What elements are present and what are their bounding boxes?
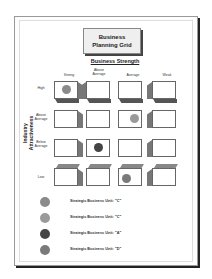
legend-color-swatch [40,197,50,207]
cell-face [152,139,176,157]
col-label-strong: Strong [56,73,82,77]
grid-cell-above-average-strong [54,110,78,128]
row-label-line: Average [31,117,51,121]
x-axis-title: Business Strength [80,58,150,64]
grid-cell-low-above-average [86,168,110,186]
cell-face [86,168,110,186]
legend-label: Strategic Business Unit: "C" [70,199,121,203]
col-label-line: Average [86,72,112,76]
legend-color-swatch [40,245,50,255]
cell-bottom [87,99,111,103]
grid-cell-low-average [118,168,142,186]
diagram-title: Business Planning Grid [83,28,141,54]
grid-cell-below-average-strong [54,139,78,157]
row-label-above-average: Above Average [31,113,51,121]
sbu-marker-d [122,174,131,183]
legend-label: Strategic Business Unit: "D" [70,247,121,251]
grid-cell-below-average-average [118,139,142,157]
row-label-below-average: Below Average [31,140,51,148]
row-label-high: High [31,86,51,90]
cell-face [54,168,78,186]
sbu-marker-a [94,143,103,152]
cell-face [118,139,142,157]
grid-cell-above-average-weak [152,110,176,128]
grid-cell-high-above-average [86,81,110,99]
grid-cell-low-weak [152,168,176,186]
grid-cell-high-strong [54,81,78,99]
cell-bottom [153,99,177,103]
grid-cell-below-average-above-average [86,139,110,157]
grid-cell-below-average-weak [152,139,176,157]
grid-cell-high-weak [152,81,176,99]
grid-cell-low-strong [54,168,78,186]
cell-face [152,110,176,128]
sbu-marker-c [62,85,71,94]
grid-cell-above-average-above-average [86,110,110,128]
legend-color-swatch [40,213,50,223]
cell-face [86,81,110,99]
title-line-1: Business [84,33,140,41]
col-label-average: Average [120,73,146,77]
col-label-weak: Weak [154,73,180,77]
title-line-2: Planning Grid [84,41,140,49]
row-label-low: Low [31,175,51,179]
sbu-marker-c [130,114,139,123]
cell-face [86,110,110,128]
cell-bottom [119,99,143,103]
cell-face [54,139,78,157]
col-label-above-average: Above Average [86,68,112,76]
cell-face [118,81,142,99]
legend-label: Strategic Business Unit: "C" [70,215,121,219]
legend-color-swatch [40,229,50,239]
cell-face [152,81,176,99]
row-label-line: Average [31,144,51,148]
grid-cell-high-average [118,81,142,99]
grid-cell-above-average-average [118,110,142,128]
legend-label: Strategic Business Unit: "A" [70,231,121,235]
cell-bottom [55,99,79,103]
cell-face [152,168,176,186]
cell-face [54,110,78,128]
